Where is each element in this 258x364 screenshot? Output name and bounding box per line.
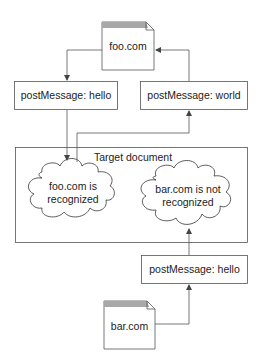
bar-document-label: bar.com (104, 320, 155, 333)
message-foo-hello-label: postMessage: hello (14, 89, 118, 102)
cloud-left-text: foo.com is recognized (30, 180, 116, 206)
arrow-foo-to-hello (67, 50, 102, 80)
target-document-title: Target document (88, 151, 178, 164)
cloud-left-line2: recognized (30, 193, 116, 206)
arrow-world-to-foo (156, 50, 189, 81)
cloud-right-line1: bar.com is not (143, 183, 233, 196)
cloud-right-line2: recognized (143, 196, 233, 209)
cloud-left-line1: foo.com is (30, 180, 116, 193)
message-foo-world-label: postMessage: world (140, 89, 248, 102)
arrow-bar-to-hello (155, 285, 189, 324)
foo-document-label: foo.com (102, 40, 154, 53)
cloud-right-text: bar.com is not recognized (143, 183, 233, 209)
message-bar-hello-label: postMessage: hello (141, 263, 248, 276)
